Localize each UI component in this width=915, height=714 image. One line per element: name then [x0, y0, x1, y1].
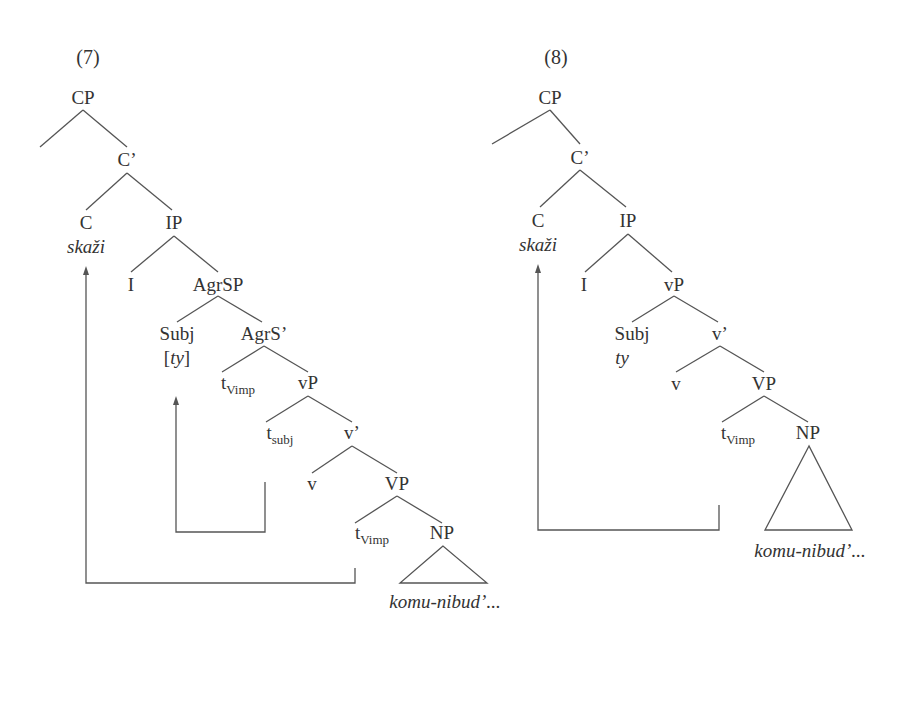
node-i: I — [581, 275, 587, 294]
node-vp-little: vP — [664, 275, 684, 294]
word-komu-nibud: komu-nibud’... — [754, 541, 865, 560]
word-skazi: skaži — [67, 237, 105, 256]
node-c: C — [532, 211, 545, 230]
trace-subj: tsubj — [267, 423, 294, 446]
node-np: NP — [796, 423, 820, 442]
node-v: v — [671, 374, 681, 393]
node-cp: CP — [538, 88, 561, 107]
node-agrsp: AgrSP — [193, 275, 244, 294]
node-i: I — [128, 275, 134, 294]
example-number-8: (8) — [544, 46, 567, 69]
node-c: C — [80, 213, 93, 232]
example-number-7: (7) — [76, 46, 99, 69]
node-v: v — [307, 474, 317, 493]
node-vp-little: vP — [298, 373, 318, 392]
node-c-bar: C’ — [571, 148, 590, 167]
node-vp: VP — [752, 374, 776, 393]
word-ty: ty — [615, 348, 629, 367]
node-ip: IP — [620, 211, 637, 230]
node-np: NP — [430, 523, 454, 542]
node-ip: IP — [166, 213, 183, 232]
node-v-bar: v’ — [712, 324, 728, 343]
word-komu-nibud: komu-nibud’... — [389, 592, 500, 611]
node-subj: Subj — [160, 324, 195, 343]
trace-vimp: tVimp — [721, 423, 755, 446]
trace-vimp-2: tVimp — [355, 523, 389, 546]
node-c-bar: C’ — [118, 150, 137, 169]
node-cp: CP — [71, 88, 94, 107]
node-subj: Subj — [615, 324, 650, 343]
word-ty-bracketed: [ty] — [164, 348, 190, 367]
word-skazi: skaži — [519, 235, 557, 254]
node-agrs-bar: AgrS’ — [241, 324, 287, 343]
trace-vimp-1: tVimp — [221, 373, 255, 396]
node-v-bar: v’ — [344, 423, 360, 442]
node-vp: VP — [385, 474, 409, 493]
